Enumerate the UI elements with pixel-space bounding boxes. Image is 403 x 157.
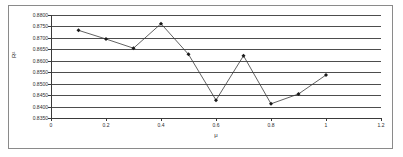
series-line [79, 24, 327, 104]
y-axis-tick-mark [48, 61, 51, 62]
x-axis-tick-label: 0.8 [268, 122, 275, 128]
x-axis-tick-mark [271, 118, 272, 121]
x-axis-tick-mark [51, 118, 52, 121]
y-axis-tick-label: 0.8700 [33, 35, 48, 41]
data-point-marker [77, 28, 81, 32]
x-axis-tick-mark [106, 118, 107, 121]
x-axis-tick-label: 0.6 [213, 122, 220, 128]
y-axis-tick-label: 0.8800 [33, 12, 48, 18]
y-axis-tick-mark [48, 26, 51, 27]
x-axis-tick-label: 0 [50, 122, 53, 128]
x-axis-tick-mark [326, 118, 327, 121]
y-axis-tick-label: 0.8350 [33, 115, 48, 121]
x-axis-tick-labels: 00.20.40.60.811.2 [51, 122, 381, 132]
y-axis-tick-labels: 0.88000.87500.87000.86500.86000.85500.85… [9, 15, 48, 118]
data-point-marker [242, 54, 246, 58]
data-series-line [51, 15, 381, 118]
y-axis-tick-mark [48, 95, 51, 96]
x-axis-tick-mark [161, 118, 162, 121]
x-axis-tick-mark [381, 118, 382, 121]
y-axis-tick-mark [48, 107, 51, 108]
y-axis-tick-label: 0.8750 [33, 23, 48, 29]
x-axis-tick-label: 1.2 [378, 122, 385, 128]
y-axis-tick-mark [48, 38, 51, 39]
chart-border: R² 0.88000.87500.87000.86500.86000.85500… [8, 5, 393, 149]
data-point-marker [104, 37, 108, 41]
x-axis-tick-label: 1 [325, 122, 328, 128]
y-axis-tick-label: 0.8650 [33, 46, 48, 52]
y-axis-tick-label: 0.8400 [33, 104, 48, 110]
y-axis-tick-mark [48, 72, 51, 73]
y-axis-tick-mark [48, 84, 51, 85]
y-axis-tick-label: 0.8500 [33, 81, 48, 87]
chart-plot-wrapper: R² 0.88000.87500.87000.86500.86000.85500… [9, 6, 392, 148]
x-axis-tick-label: 0.2 [103, 122, 110, 128]
x-axis-title: μ [51, 132, 381, 138]
y-axis-tick-mark [48, 49, 51, 50]
y-axis-tick-label: 0.8450 [33, 92, 48, 98]
y-axis-tick-label: 0.8550 [33, 69, 48, 75]
y-axis-tick-mark [48, 15, 51, 16]
data-point-marker [269, 102, 273, 106]
x-axis-tick-mark [216, 118, 217, 121]
y-axis-tick-label: 0.8600 [33, 58, 48, 64]
data-point-marker [214, 98, 218, 102]
x-axis-tick-label: 0.4 [158, 122, 165, 128]
